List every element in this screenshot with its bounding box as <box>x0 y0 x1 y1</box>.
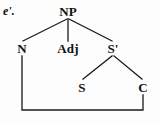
syntax-tree-diagram: e'. NP N Adj S' S C <box>0 0 160 122</box>
edge-np-to-sbar <box>69 19 112 41</box>
tree-edges-canvas <box>0 0 160 122</box>
tree-node-s: S <box>78 81 85 94</box>
tree-node-s-bar: S' <box>107 42 118 55</box>
tree-node-n: N <box>17 42 27 55</box>
edge-sbar-to-c <box>114 56 142 79</box>
edge-sbar-to-s <box>83 56 112 79</box>
tree-node-c: C <box>138 81 148 94</box>
edge-np-to-n <box>23 19 67 41</box>
example-label: e'. <box>3 5 15 17</box>
tree-node-adj: Adj <box>57 42 79 55</box>
tree-node-np: NP <box>59 5 77 18</box>
